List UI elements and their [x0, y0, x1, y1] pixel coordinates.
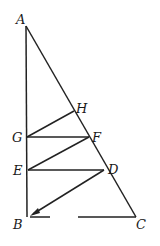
arrowhead-icon — [30, 208, 40, 216]
label-a: A — [15, 12, 25, 27]
label-g: G — [12, 130, 22, 145]
label-c: C — [136, 217, 146, 232]
geometry-diagram: A H G F E D B C — [0, 0, 160, 246]
segment-ac — [26, 26, 136, 217]
segment-ab — [26, 26, 27, 217]
label-d: D — [107, 162, 119, 177]
segment-db — [33, 170, 104, 214]
segment-hg — [27, 111, 74, 137]
segment-fe — [28, 137, 89, 170]
label-b: B — [12, 217, 23, 232]
label-h: H — [75, 101, 88, 116]
label-e: E — [12, 163, 23, 178]
label-f: F — [91, 130, 102, 145]
